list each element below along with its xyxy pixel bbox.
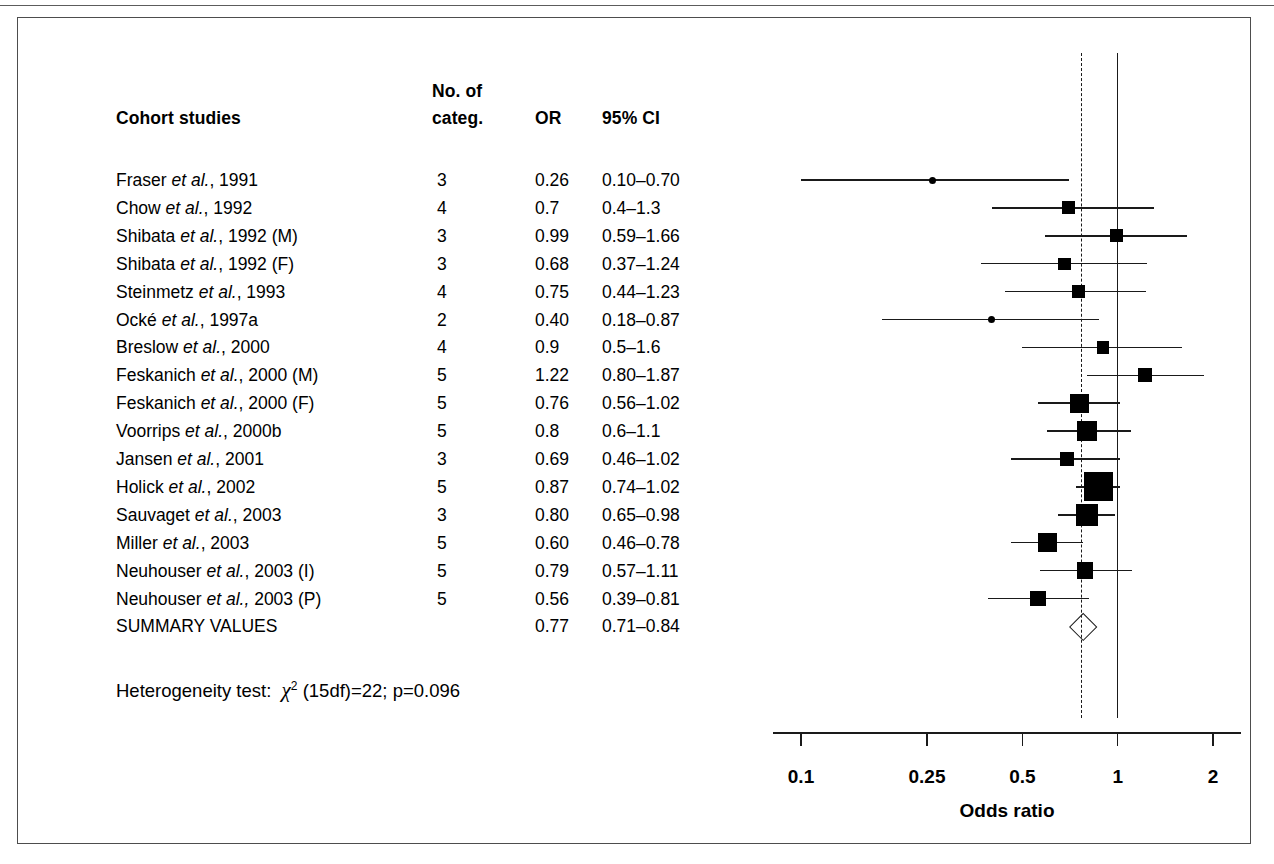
row-study-label: Neuhouser et al., 2003 (P) [116, 589, 321, 610]
row-study-etal: et al. [185, 421, 223, 441]
confidence-interval-whisker [801, 179, 1069, 181]
row-study-etal: et al. [166, 198, 204, 218]
row-study-label: Shibata et al., 1992 (M) [116, 226, 298, 247]
row-confidence-interval: 0.18–0.87 [602, 310, 680, 331]
row-study-etal: et al. [171, 170, 209, 190]
heterogeneity-prefix: Heterogeneity test: [116, 680, 271, 701]
row-odds-ratio: 0.68 [535, 254, 569, 275]
point-estimate-marker [988, 316, 995, 323]
row-study-label: Feskanich et al., 2000 (F) [116, 393, 314, 414]
row-odds-ratio: 0.99 [535, 226, 569, 247]
confidence-interval-whisker [981, 263, 1147, 265]
row-categories: 4 [437, 337, 447, 358]
row-confidence-interval: 0.4–1.3 [602, 198, 660, 219]
summary-diamond [1068, 613, 1097, 642]
row-confidence-interval: 0.71–0.84 [602, 616, 680, 637]
confidence-interval-whisker [988, 598, 1089, 600]
row-study-etal: et al. [206, 561, 244, 581]
point-estimate-marker [1058, 258, 1070, 270]
table-row: Jansen et al., 200130.690.46–1.02 [18, 449, 778, 477]
table-row: Shibata et al., 1992 (M)30.990.59–1.66 [18, 226, 778, 254]
confidence-interval-whisker [1087, 375, 1204, 377]
row-study-label: Steinmetz et al., 1993 [116, 282, 285, 303]
confidence-interval-whisker [1047, 430, 1130, 432]
summary-reference-line [1081, 53, 1082, 718]
confidence-interval-whisker [992, 207, 1154, 209]
row-study-etal: et al. [183, 337, 221, 357]
row-confidence-interval: 0.59–1.66 [602, 226, 680, 247]
table-row: Feskanich et al., 2000 (M)51.220.80–1.87 [18, 365, 778, 393]
x-axis-tick [1212, 733, 1214, 746]
confidence-interval-whisker [1022, 347, 1182, 349]
row-odds-ratio: 1.22 [535, 365, 569, 386]
row-categories: 5 [437, 561, 447, 582]
forest-table: Cohort studies No. of categ. OR 95% CI F… [18, 18, 778, 845]
row-categories: 5 [437, 589, 447, 610]
chi-symbol: χ [282, 678, 291, 702]
x-axis-line [773, 732, 1241, 734]
row-odds-ratio: 0.8 [535, 421, 559, 442]
point-estimate-marker [1077, 421, 1097, 441]
row-confidence-interval: 0.80–1.87 [602, 365, 680, 386]
row-confidence-interval: 0.57–1.11 [602, 561, 679, 582]
page-top-rule [0, 5, 1274, 6]
row-categories: 3 [437, 449, 447, 470]
row-odds-ratio: 0.26 [535, 170, 569, 191]
confidence-interval-whisker [1011, 458, 1121, 460]
point-estimate-marker [1097, 341, 1109, 353]
point-estimate-marker [1062, 201, 1075, 214]
confidence-interval-whisker [1038, 402, 1120, 404]
row-categories: 5 [437, 477, 447, 498]
row-study-etal: et al. [180, 226, 218, 246]
x-axis-tick [1022, 733, 1024, 746]
x-axis-title: Odds ratio [959, 800, 1054, 822]
row-categories: 4 [437, 198, 447, 219]
table-row: Miller et al., 200350.600.46–0.78 [18, 533, 778, 561]
x-axis-tick [800, 733, 802, 746]
point-estimate-marker [1110, 229, 1123, 242]
row-study-label: Breslow et al., 2000 [116, 337, 270, 358]
row-odds-ratio: 0.79 [535, 561, 569, 582]
x-axis-tick [1117, 733, 1119, 746]
figure-page: Cohort studies No. of categ. OR 95% CI F… [0, 0, 1274, 864]
chi-exponent: 2 [291, 679, 298, 693]
row-study-label: Feskanich et al., 2000 (M) [116, 365, 318, 386]
row-study-label: Sauvaget et al., 2003 [116, 505, 281, 526]
row-confidence-interval: 0.74–1.02 [602, 477, 680, 498]
row-odds-ratio: 0.75 [535, 282, 569, 303]
row-study-etal: et al., [206, 589, 249, 609]
row-study-etal: et al. [199, 282, 237, 302]
point-estimate-marker [1038, 533, 1057, 552]
row-study-label: Miller et al., 2003 [116, 533, 249, 554]
column-header-noof: No. of [432, 81, 482, 102]
row-categories: 3 [437, 254, 447, 275]
x-axis-tick-label: 0.1 [788, 766, 814, 788]
row-study-label: Neuhouser et al., 2003 (I) [116, 561, 314, 582]
confidence-interval-whisker [882, 319, 1099, 321]
point-estimate-marker [1070, 394, 1089, 413]
column-header-ci: 95% CI [602, 108, 660, 129]
table-row: Fraser et al., 199130.260.10–0.70 [18, 170, 778, 198]
row-study-etal: et al. [195, 505, 233, 525]
confidence-interval-whisker [1076, 486, 1120, 488]
row-categories: 5 [437, 421, 447, 442]
table-row: Feskanich et al., 2000 (F)50.760.56–1.02 [18, 393, 778, 421]
row-study-etal: et al. [180, 254, 218, 274]
figure-frame: Cohort studies No. of categ. OR 95% CI F… [17, 17, 1251, 844]
row-study-etal: et al. [201, 393, 239, 413]
row-study-label: Ocké et al., 1997a [116, 310, 258, 331]
row-study-etal: et al. [162, 310, 200, 330]
row-categories: 3 [437, 505, 447, 526]
row-confidence-interval: 0.5–1.6 [602, 337, 660, 358]
row-study-label: Holick et al., 2002 [116, 477, 255, 498]
row-confidence-interval: 0.46–0.78 [602, 533, 680, 554]
table-row: Chow et al., 199240.70.4–1.3 [18, 198, 778, 226]
row-categories: 5 [437, 365, 447, 386]
row-study-label: Shibata et al., 1992 (F) [116, 254, 294, 275]
row-categories: 5 [437, 393, 447, 414]
row-study-label: Voorrips et al., 2000b [116, 421, 281, 442]
row-study-etal: et al. [169, 477, 207, 497]
row-categories: 4 [437, 282, 447, 303]
row-categories: 2 [437, 310, 447, 331]
row-confidence-interval: 0.37–1.24 [602, 254, 680, 275]
